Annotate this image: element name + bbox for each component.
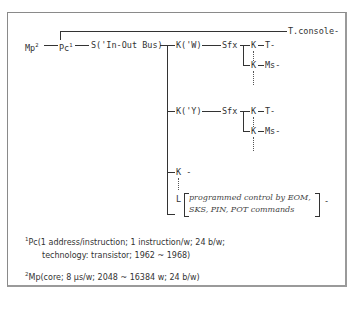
mp-node: Mp2 <box>25 40 39 53</box>
connector <box>243 65 250 66</box>
k-node: K <box>251 40 256 50</box>
footnote-2: 2Mp(core; 8 μs/w; 2048 ~ 16384 w; 24 b/w… <box>25 271 200 282</box>
bus-trunk <box>167 45 168 214</box>
ms-node: Ms- <box>265 126 280 136</box>
right-bracket <box>315 193 320 217</box>
connector <box>243 45 244 65</box>
ms-node: Ms- <box>265 60 280 70</box>
connector <box>167 214 175 215</box>
mp-label: Mp <box>25 43 35 53</box>
connector <box>258 111 264 112</box>
in-out-bus-switch: S('In-Out Bus) <box>91 40 163 50</box>
footnote-1-line2: technology: transistor; 1962 ~ 1968) <box>42 251 190 260</box>
k-node: K - <box>176 167 191 177</box>
sfx-node-w: Sfx <box>222 40 237 50</box>
connector <box>258 65 264 66</box>
l-note-line2: SKS, PIN, POT commands <box>189 205 294 215</box>
ellipsis-dots <box>253 137 255 151</box>
connector <box>75 45 89 46</box>
mp-footnote-ref: 2 <box>35 42 38 48</box>
connector <box>167 172 175 173</box>
footnote-1-line1: Pc(1 address/instruction; 1 instruction/… <box>29 238 226 247</box>
l-node: L <box>176 194 181 204</box>
connector <box>44 45 58 46</box>
l-tail: - <box>324 196 329 206</box>
connector <box>202 45 221 46</box>
connector <box>240 111 250 112</box>
l-note-line1: programmed control by EOM, <box>189 193 311 203</box>
k-node: K <box>251 126 256 136</box>
connector <box>240 45 250 46</box>
footnote-2-line1: Mp(core; 8 μs/w; 2048 ~ 16384 w; 24 b/w) <box>29 273 200 282</box>
connector <box>243 131 250 132</box>
k-node: K <box>251 60 256 70</box>
connector <box>60 31 61 40</box>
pc-node: Pc1 <box>59 40 73 53</box>
t-console-node: T.console- <box>288 26 339 36</box>
footnote-1: 1Pc(1 address/instruction; 1 instruction… <box>25 236 225 247</box>
k-node: K <box>251 106 256 116</box>
t-node: T- <box>265 40 275 50</box>
connector <box>167 111 175 112</box>
t-node: T- <box>265 106 275 116</box>
connector <box>243 111 244 131</box>
connector <box>258 45 264 46</box>
pc-label: Pc <box>59 43 69 53</box>
ellipsis-dots <box>178 178 180 190</box>
ellipsis-dots <box>253 71 255 85</box>
k-y-node: K('Y) <box>176 106 202 116</box>
console-connector <box>60 31 287 32</box>
sfx-node-y: Sfx <box>222 106 237 116</box>
k-w-node: K('W) <box>176 40 202 50</box>
connector <box>202 111 221 112</box>
pc-footnote-ref: 1 <box>69 42 72 48</box>
connector <box>258 131 264 132</box>
